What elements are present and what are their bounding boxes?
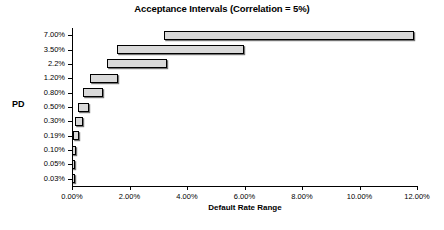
bar-0.50% bbox=[78, 103, 89, 112]
y-tick-10 bbox=[68, 179, 72, 180]
x-tick-6 bbox=[417, 186, 418, 190]
x-tick-label-3: 6.00% bbox=[223, 192, 267, 201]
x-tick-2 bbox=[187, 186, 188, 190]
y-tick-9 bbox=[68, 164, 72, 165]
x-tick-label-1: 2.00% bbox=[108, 192, 152, 201]
y-tick-1 bbox=[68, 50, 72, 51]
bar-3.50% bbox=[117, 45, 244, 54]
y-tick-4 bbox=[68, 93, 72, 94]
x-axis-title: Default Rate Range bbox=[72, 203, 418, 212]
bar-0.05% bbox=[72, 160, 75, 169]
x-tick-label-5: 10.00% bbox=[338, 192, 382, 201]
y-tick-label-0: 7.00% bbox=[44, 30, 65, 40]
x-tick-label-4: 8.00% bbox=[280, 192, 324, 201]
x-tick-5 bbox=[360, 186, 361, 190]
bar-2.2% bbox=[107, 59, 167, 68]
y-tick-label-2: 2.2% bbox=[48, 59, 65, 69]
x-tick-label-6: 12.00% bbox=[395, 192, 439, 201]
bar-0.30% bbox=[75, 117, 83, 126]
chart-page: Acceptance Intervals (Correlation = 5%) … bbox=[0, 0, 444, 230]
x-tick-0 bbox=[72, 186, 73, 190]
y-tick-6 bbox=[68, 121, 72, 122]
x-tick-label-0: 0.00% bbox=[50, 192, 94, 201]
x-tick-1 bbox=[130, 186, 131, 190]
y-tick-label-5: 0.50% bbox=[44, 102, 65, 112]
x-tick-label-2: 4.00% bbox=[165, 192, 209, 201]
y-tick-label-10: 0.03% bbox=[44, 174, 65, 184]
y-tick-label-6: 0.30% bbox=[44, 116, 65, 126]
y-tick-7 bbox=[68, 136, 72, 137]
y-tick-label-4: 0.80% bbox=[44, 88, 65, 98]
bar-1.20% bbox=[90, 74, 118, 83]
y-tick-label-7: 0.19% bbox=[44, 131, 65, 141]
y-tick-2 bbox=[68, 64, 72, 65]
y-tick-5 bbox=[68, 107, 72, 108]
y-tick-label-3: 1.20% bbox=[44, 73, 65, 83]
bar-7.00% bbox=[164, 31, 414, 40]
y-tick-8 bbox=[68, 150, 72, 151]
bar-0.19% bbox=[73, 131, 79, 140]
y-tick-label-1: 3.50% bbox=[44, 45, 65, 55]
x-tick-4 bbox=[302, 186, 303, 190]
y-tick-label-8: 0.10% bbox=[44, 145, 65, 155]
y-tick-0 bbox=[68, 35, 72, 36]
bar-0.80% bbox=[83, 88, 103, 97]
chart-title: Acceptance Intervals (Correlation = 5%) bbox=[0, 3, 444, 14]
y-tick-label-9: 0.05% bbox=[44, 159, 65, 169]
bar-0.10% bbox=[72, 146, 76, 155]
x-tick-3 bbox=[245, 186, 246, 190]
y-axis-title: PD bbox=[12, 99, 25, 109]
bar-0.03% bbox=[72, 174, 75, 183]
y-tick-3 bbox=[68, 78, 72, 79]
